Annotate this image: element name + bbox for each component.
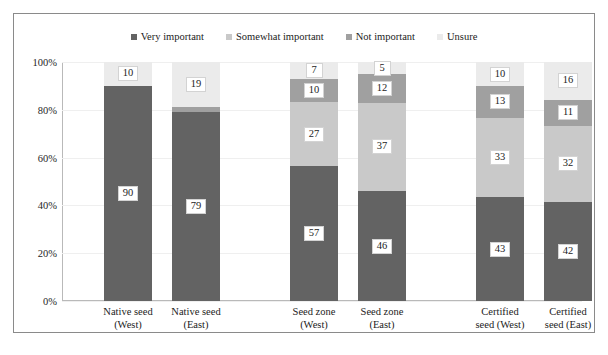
stacked-bar[interactable]: 1090 bbox=[104, 62, 152, 301]
bar-segment-value-label: 57 bbox=[304, 226, 325, 241]
bar-segment-value-label: 19 bbox=[186, 77, 207, 92]
legend-swatch-icon bbox=[131, 34, 137, 40]
legend-item[interactable]: Not important bbox=[346, 32, 415, 43]
y-axis-tick-label: 40% bbox=[38, 200, 57, 211]
bar-segment-value-label: 10 bbox=[490, 67, 511, 82]
bar-segment[interactable]: 12 bbox=[358, 74, 406, 103]
bar-segment-value-label: 12 bbox=[372, 81, 393, 96]
y-axis-tick-label: 0% bbox=[43, 296, 57, 307]
bar-segment-value-label: 16 bbox=[558, 73, 579, 88]
stacked-bar[interactable]: 5123746 bbox=[358, 62, 406, 301]
bar-segment[interactable]: 11 bbox=[544, 100, 592, 126]
bar-segment[interactable]: 57 bbox=[290, 166, 338, 301]
legend-item[interactable]: Very important bbox=[131, 32, 204, 43]
bar-segment-value-label: 42 bbox=[558, 244, 579, 259]
chart-plot-area: 0%20%40%60%80%100% 109019797102757512374… bbox=[62, 62, 582, 301]
bar-segment-value-label: 7 bbox=[306, 63, 323, 78]
bar-segment[interactable]: 90 bbox=[104, 86, 152, 301]
bar-segment-value-label: 37 bbox=[372, 139, 393, 154]
x-axis-label-line: seed (East) bbox=[530, 318, 606, 331]
legend-swatch-icon bbox=[226, 34, 232, 40]
bar-segment-value-label: 10 bbox=[118, 66, 139, 81]
legend-item-label: Unsure bbox=[447, 32, 477, 43]
y-axis-tick-label: 60% bbox=[38, 152, 57, 163]
x-axis-label: Native seed(East) bbox=[158, 305, 234, 331]
bar-segment-value-label: 43 bbox=[490, 242, 511, 257]
x-axis-label-line: Seed zone bbox=[276, 305, 352, 318]
bar-segment[interactable]: 42 bbox=[544, 202, 592, 301]
gridline bbox=[62, 301, 582, 302]
bar-segment[interactable]: 32 bbox=[544, 126, 592, 202]
bar-segment[interactable]: 10 bbox=[104, 62, 152, 86]
bar-series-container: 10901979710275751237461013334316113242 bbox=[62, 62, 582, 301]
bar-segment[interactable]: 37 bbox=[358, 103, 406, 191]
x-axis-label-line: Native seed bbox=[158, 305, 234, 318]
x-axis-label-line: Certified bbox=[462, 305, 538, 318]
bar-segment-value-label: 46 bbox=[372, 239, 393, 254]
stacked-bar[interactable]: 10133343 bbox=[476, 62, 524, 301]
chart-figure: Very importantSomewhat importantNot impo… bbox=[13, 13, 595, 333]
bar-segment-value-label: 32 bbox=[558, 156, 579, 171]
legend-item-label: Somewhat important bbox=[236, 32, 324, 43]
x-axis-label-line: Native seed bbox=[90, 305, 166, 318]
y-axis-tick-label: 20% bbox=[38, 248, 57, 259]
legend-item-label: Not important bbox=[356, 32, 415, 43]
bar-segment[interactable]: 13 bbox=[476, 86, 524, 117]
legend-item[interactable]: Somewhat important bbox=[226, 32, 324, 43]
bar-segment[interactable]: 7 bbox=[290, 62, 338, 79]
bar-segment-value-label: 33 bbox=[490, 150, 511, 165]
bar-segment-value-label: 27 bbox=[304, 127, 325, 142]
x-axis-label-line: (East) bbox=[158, 318, 234, 331]
bar-segment[interactable]: 33 bbox=[476, 118, 524, 198]
x-axis-label-line: (West) bbox=[90, 318, 166, 331]
bar-segment[interactable]: 16 bbox=[544, 62, 592, 100]
bar-segment-value-label: 11 bbox=[558, 105, 578, 120]
y-axis-tick-label: 100% bbox=[33, 57, 58, 68]
bar-segment-value-label: 79 bbox=[186, 199, 207, 214]
stacked-bar[interactable]: 1979 bbox=[172, 62, 220, 301]
x-axis-label: Certifiedseed (West) bbox=[462, 305, 538, 331]
bar-segment-value-label: 13 bbox=[490, 94, 511, 109]
x-axis-label: Native seed(West) bbox=[90, 305, 166, 331]
bar-segment[interactable]: 10 bbox=[476, 62, 524, 86]
x-axis-label-line: Seed zone bbox=[344, 305, 420, 318]
bar-segment[interactable]: 5 bbox=[358, 62, 406, 74]
x-axis-labels: Native seed(West)Native seed(East)Seed z… bbox=[62, 303, 582, 333]
bar-segment[interactable]: 43 bbox=[476, 197, 524, 301]
x-axis-label-line: Certified bbox=[530, 305, 606, 318]
stacked-bar[interactable]: 16113242 bbox=[544, 62, 592, 301]
bar-segment[interactable]: 10 bbox=[290, 79, 338, 103]
x-axis-label: Seed zone(West) bbox=[276, 305, 352, 331]
x-axis-label: Seed zone(East) bbox=[344, 305, 420, 331]
legend-swatch-icon bbox=[437, 34, 443, 40]
x-axis-label-line: (West) bbox=[276, 318, 352, 331]
bar-segment-value-label: 10 bbox=[304, 83, 325, 98]
bar-segment[interactable]: 27 bbox=[290, 102, 338, 166]
chart-legend: Very importantSomewhat importantNot impo… bbox=[14, 32, 594, 43]
x-axis-label: Certifiedseed (East) bbox=[530, 305, 606, 331]
legend-item[interactable]: Unsure bbox=[437, 32, 477, 43]
legend-item-label: Very important bbox=[141, 32, 204, 43]
bar-segment[interactable]: 79 bbox=[172, 112, 220, 301]
y-axis-tick-label: 80% bbox=[38, 104, 57, 115]
stacked-bar[interactable]: 7102757 bbox=[290, 62, 338, 301]
bar-segment[interactable]: 46 bbox=[358, 191, 406, 301]
x-axis-label-line: (East) bbox=[344, 318, 420, 331]
legend-swatch-icon bbox=[346, 34, 352, 40]
bar-segment-value-label: 5 bbox=[374, 61, 391, 76]
x-axis-label-line: seed (West) bbox=[462, 318, 538, 331]
bar-segment-value-label: 90 bbox=[118, 186, 139, 201]
bar-segment[interactable]: 19 bbox=[172, 62, 220, 107]
